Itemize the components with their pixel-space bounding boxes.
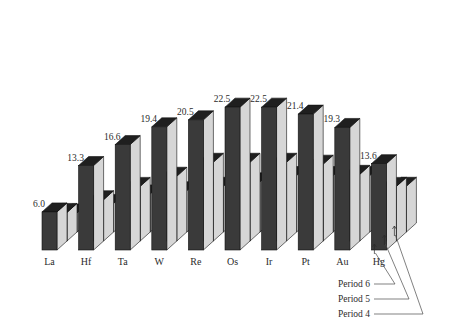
bar-la-period-6 <box>42 203 67 250</box>
value-label-re: 20.5 <box>177 107 194 117</box>
category-label-au: Au <box>336 256 348 267</box>
value-label-pt: 21.4 <box>287 101 304 111</box>
bar-os-period-6 <box>225 98 250 250</box>
category-label-os: Os <box>227 256 238 267</box>
bar-w-period-6 <box>152 118 177 250</box>
value-label-la: 6.0 <box>33 199 45 209</box>
category-label-ir: Ir <box>266 256 273 267</box>
value-label-ta: 16.6 <box>104 132 121 142</box>
category-label-la: La <box>44 256 55 267</box>
bar-ir-period-6 <box>262 98 287 250</box>
bar-ta-period-6 <box>115 136 140 250</box>
value-label-hf: 13.3 <box>67 153 84 163</box>
value-label-w: 19.4 <box>140 114 157 124</box>
category-label-re: Re <box>190 256 202 267</box>
value-label-hg: 13.6 <box>360 151 377 161</box>
bar-au-period-6 <box>335 118 360 250</box>
bar-pt-period-6 <box>298 105 323 250</box>
bar-re-period-6 <box>188 111 213 250</box>
value-label-ir: 22.5 <box>250 94 267 104</box>
category-label-ta: Ta <box>118 256 128 267</box>
category-label-pt: Pt <box>302 256 311 267</box>
chart-figure: 6.013.316.619.420.522.522.521.419.313.6 … <box>0 0 460 328</box>
value-label-au: 19.3 <box>323 114 340 124</box>
category-label-w: W <box>155 256 165 267</box>
bar-chart-canvas: 6.013.316.619.420.522.522.521.419.313.6 … <box>0 0 460 328</box>
bar-hf-period-6 <box>79 157 104 250</box>
legend-label-period-4: Period 4 <box>338 309 370 319</box>
legend-label-period-5: Period 5 <box>338 294 370 304</box>
value-label-os: 22.5 <box>214 94 231 104</box>
legend-label-period-6: Period 6 <box>338 279 370 289</box>
category-label-hf: Hf <box>81 256 92 267</box>
